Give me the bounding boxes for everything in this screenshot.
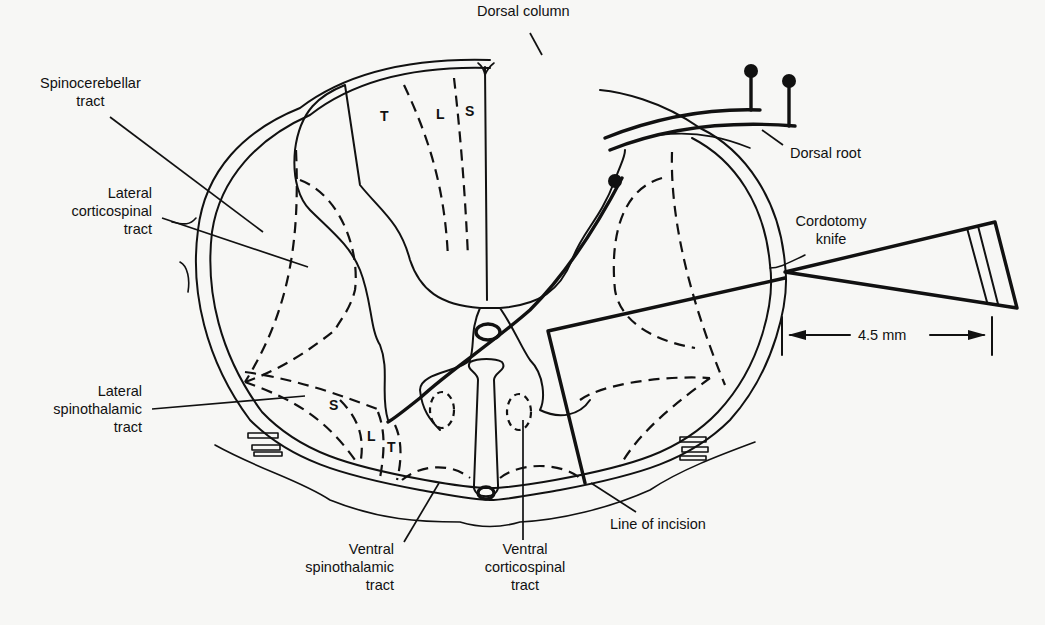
lat-spinothalamic-upper (245, 372, 380, 410)
dorsal-zone-l: L (436, 106, 445, 122)
leader-line-of-incision (591, 483, 636, 512)
label-dorsal-column: Dorsal column (477, 2, 570, 20)
dorsal-median-septum (485, 67, 487, 300)
label-dorsal-root: Dorsal root (790, 144, 861, 162)
ganglion-cell-2 (782, 74, 796, 88)
lat-spinothalamic-lt (378, 412, 384, 478)
ventral-corticospinal-right (507, 394, 531, 430)
line-of-incision (548, 278, 785, 483)
label-cordotomy-knife: Cordotomy knife (786, 212, 876, 248)
leader-lateral-spinothalamic (152, 396, 305, 409)
crossing-fiber (388, 178, 622, 422)
label-lateral-corticospinal-tract: Lateral corticospinal tract (40, 184, 152, 238)
measure-arrowhead-right (968, 330, 986, 340)
ventral-fissure (469, 359, 504, 496)
spinothalamic-zone-l: L (367, 428, 376, 444)
ventral-spinothalamic-right (500, 466, 580, 478)
leader-lateral-corticospinal (162, 218, 308, 267)
lat-spinothalamic-outer (245, 382, 355, 460)
ligament-right (770, 255, 805, 268)
ventral-corticospinal-left (430, 392, 454, 428)
measure-arrowhead-left (788, 330, 806, 340)
spinothalamic-zone-t: T (387, 439, 396, 455)
label-ventral-corticospinal-tract: Ventral corticospinal tract (470, 540, 580, 594)
label-ventral-spinothalamic-tract: Ventral spinothalamic tract (270, 540, 394, 594)
spinal-cord-drawing (0, 0, 1045, 625)
dorsal-horn-neuron (608, 174, 622, 188)
right-spinocerebellar-boundary (672, 152, 725, 385)
ventral-outer-envelope (215, 442, 755, 527)
ganglion-cell-1 (744, 64, 758, 78)
right-spinothalamic-upper (580, 377, 710, 400)
label-spinocerebellar-tract: Spinocerebellar tract (40, 74, 141, 110)
knife-band-2 (978, 226, 998, 304)
knife-band-1 (967, 228, 987, 302)
ligament-left-2 (180, 262, 189, 292)
label-line-of-incision: Line of incision (610, 515, 706, 533)
leader-dorsal-column (530, 33, 542, 55)
leader-dorsal-root (762, 130, 783, 145)
spinocerebellar-boundary (245, 150, 297, 382)
spinothalamic-zone-s: S (329, 397, 338, 413)
label-lateral-spinothalamic-tract: Lateral spinothalamic tract (22, 382, 142, 436)
outer-membrane-outline (196, 60, 786, 500)
ventral-rootlets-left (248, 433, 282, 456)
cordotomy-diagram: Dorsal column Spinocerebellar tract Late… (0, 0, 1045, 625)
label-measurement: 4.5 mm (858, 326, 906, 344)
leader-ventral-spinothalamic (404, 483, 439, 542)
dorsal-zone-t: T (380, 108, 389, 124)
right-corticospinal-boundary (614, 178, 695, 348)
dorsal-zone-s: S (465, 103, 474, 119)
